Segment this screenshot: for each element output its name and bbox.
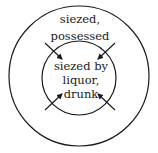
- outer-label: siezed, possessed: [44, 12, 116, 44]
- outer-label-line-1: siezed,: [44, 12, 116, 27]
- inner-label-line-2: liquor,: [48, 73, 114, 87]
- arrow-top-left: [45, 43, 62, 59]
- inner-label-line-1: siezed by: [48, 59, 114, 73]
- inner-label-line-3: drunk: [48, 87, 114, 101]
- inner-label: siezed by liquor, drunk: [48, 59, 114, 101]
- outer-label-line-2: possessed: [44, 29, 116, 44]
- arrow-top-right: [98, 43, 115, 59]
